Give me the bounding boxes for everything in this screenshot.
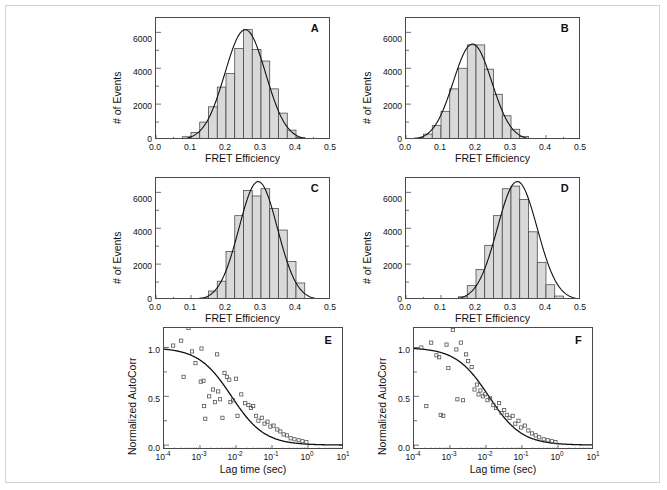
panel-f-xtick-4: 100 [545,452,569,462]
panel-e-xlabel: Lag time (sec) [163,463,343,475]
panel-f-ytick-1: 0.5 [386,394,410,404]
panel-d-letter: D [561,182,569,194]
panel-c-xtick-1: 0.1 [178,302,202,312]
panel-c-xlabel: FRET Efficiency [155,312,330,324]
panel-e-xtick-0: 10-4 [151,452,175,462]
panel-a-xlabel: FRET Efficiency [155,152,330,164]
panel-d-xtick-0: 0.0 [393,302,417,312]
panel-f-xtick-0: 10-4 [401,452,425,462]
panel-b-ytick-1: 2000 [370,101,402,111]
panel-b-ytick-3: 6000 [370,34,402,44]
panel-d: # of Events 0 2000 4000 6000 D 0.0 0.1 0… [355,172,585,322]
panel-f-letter: F [575,334,582,346]
panel-c-plot-area: C [155,177,330,299]
panel-a: # of Events 0 2000 4000 6000 A 0.0 0.1 0… [105,12,335,162]
panel-a-plot-area: A [155,17,330,139]
panel-f-plot-area: F [413,327,593,449]
panel-a-xtick-4: 0.4 [283,142,307,152]
panel-a-xtick-3: 0.3 [248,142,272,152]
panel-d-xtick-4: 0.4 [533,302,557,312]
panel-b-xlabel: FRET Efficiency [405,152,580,164]
panel-b-xtick-3: 0.3 [498,142,522,152]
panel-f-ylabel: Normalized AutoCorr [376,358,388,455]
panel-a-letter: A [311,22,319,34]
panel-b-letter: B [561,22,569,34]
panel-b-xtick-0: 0.0 [393,142,417,152]
panel-f-xlabel: Lag time (sec) [413,463,593,475]
panel-e-plot-area: E [163,327,343,449]
panel-d-ytick-2: 4000 [370,227,402,237]
panel-c-xtick-4: 0.4 [283,302,307,312]
panel-f-ytick-2: 1.0 [386,345,410,355]
panel-d-ylabel: # of Events [361,231,373,284]
panel-d-xtick-2: 0.2 [463,302,487,312]
panel-f: Normalized AutoCorr 0.0 0.5 1.0 F 10-4 1… [368,325,603,480]
panel-a-xtick-0: 0.0 [143,142,167,152]
panel-b-xtick-5: 0.5 [568,142,592,152]
panel-b-ylabel: # of Events [361,71,373,124]
panel-c-ytick-3: 6000 [120,194,152,204]
panel-a-xtick-5: 0.5 [318,142,342,152]
panel-e-xtick-3: 10-1 [259,452,283,462]
panel-b-xtick-4: 0.4 [533,142,557,152]
panel-c-letter: C [311,182,319,194]
panel-d-xtick-5: 0.5 [568,302,592,312]
panel-d-xlabel: FRET Efficiency [405,312,580,324]
panel-c-ytick-1: 2000 [120,261,152,271]
panel-a-xtick-2: 0.2 [213,142,237,152]
panel-c-ylabel: # of Events [111,231,123,284]
panel-f-xtick-5: 101 [581,452,605,462]
panel-c-xtick-3: 0.3 [248,302,272,312]
panel-d-ytick-3: 6000 [370,194,402,204]
panel-b: # of Events 0 2000 4000 6000 B 0.0 0.1 0… [355,12,585,162]
panel-b-xtick-2: 0.2 [463,142,487,152]
panel-b-plot-area: B [405,17,580,139]
panel-c-xtick-0: 0.0 [143,302,167,312]
panel-a-ytick-2: 4000 [120,67,152,77]
panel-c: # of Events 0 2000 4000 6000 C 0.0 0.1 0… [105,172,335,322]
panel-e-xtick-1: 10-3 [187,452,211,462]
panel-d-ytick-1: 2000 [370,261,402,271]
panel-f-xtick-2: 10-2 [473,452,497,462]
panel-b-xtick-1: 0.1 [428,142,452,152]
panel-e-letter: E [324,334,332,346]
panel-f-xtick-1: 10-3 [437,452,461,462]
panel-d-xtick-3: 0.3 [498,302,522,312]
panel-e-ytick-1: 0.5 [136,394,160,404]
panel-d-plot-area: D [405,177,580,299]
panel-f-xtick-3: 10-1 [509,452,533,462]
panel-c-xtick-2: 0.2 [213,302,237,312]
panel-e-xtick-4: 100 [295,452,319,462]
panel-e-xtick-5: 101 [331,452,355,462]
panel-a-ytick-1: 2000 [120,101,152,111]
panel-a-xtick-1: 0.1 [178,142,202,152]
panel-e: Normalized AutoCorr 0.0 0.5 1.0 E 10-4 1… [118,325,353,480]
panel-e-ylabel: Normalized AutoCorr [126,358,138,455]
panel-a-ylabel: # of Events [111,71,123,124]
figure-panel-grid: # of Events 0 2000 4000 6000 A 0.0 0.1 0… [0,0,667,490]
panel-e-xtick-2: 10-2 [223,452,247,462]
panel-d-xtick-1: 0.1 [428,302,452,312]
panel-b-ytick-2: 4000 [370,67,402,77]
panel-c-ytick-2: 4000 [120,227,152,237]
panel-e-ytick-2: 1.0 [136,345,160,355]
panel-a-ytick-3: 6000 [120,34,152,44]
panel-c-xtick-5: 0.5 [318,302,342,312]
